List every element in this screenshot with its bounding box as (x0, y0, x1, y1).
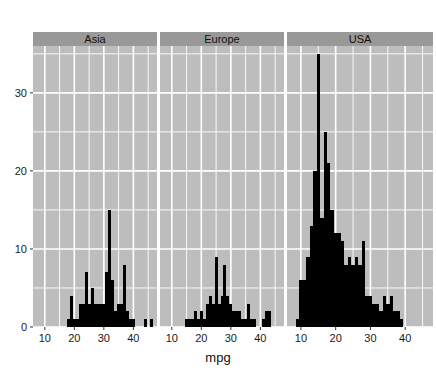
facet-panel-usa: USA10203040 (287, 32, 433, 344)
y-tick-label: 10 (15, 243, 27, 255)
histogram-bar (67, 319, 70, 327)
histogram-bar (85, 272, 88, 327)
histogram-bar (393, 311, 396, 327)
histogram-bar (203, 319, 206, 327)
histogram-bar (150, 319, 153, 327)
histogram-bar (235, 311, 238, 327)
histogram-bar (117, 304, 120, 327)
x-tick-label: 40 (127, 332, 139, 344)
histogram-bar (250, 319, 253, 327)
faceted-histogram-svg: Asia10203040Europe10203040USA10203040010… (0, 0, 436, 380)
histogram-bar (238, 311, 241, 327)
histogram-bar (215, 257, 218, 327)
histogram-bar (108, 210, 111, 327)
histogram-bar (99, 304, 102, 327)
histogram-bar (241, 319, 244, 327)
histogram-bar (244, 319, 247, 327)
histogram-bar (200, 311, 203, 327)
histogram-bar (218, 304, 221, 327)
histogram-bar (105, 272, 108, 327)
histogram-bar (334, 233, 337, 327)
histogram-bar (132, 319, 135, 327)
histogram-bar (253, 319, 256, 327)
x-tick-label: 20 (68, 332, 80, 344)
histogram-bar (341, 241, 344, 327)
histogram-bar (355, 257, 358, 327)
histogram-bar (88, 304, 91, 327)
histogram-bar (348, 257, 351, 327)
x-tick-label: 40 (399, 332, 411, 344)
y-tick-label: 30 (15, 87, 27, 99)
histogram-bar (379, 311, 382, 327)
histogram-bar (102, 304, 105, 327)
histogram-bar (229, 304, 232, 327)
histogram-bar (191, 319, 194, 327)
histogram-bar (223, 265, 226, 327)
histogram-bar (386, 304, 389, 327)
histogram-bar (383, 296, 386, 327)
chart-figure: Asia10203040Europe10203040USA10203040010… (0, 0, 436, 380)
histogram-bar (330, 210, 333, 327)
facet-strip-label-asia: Asia (84, 33, 106, 45)
histogram-bar (303, 280, 306, 327)
histogram-bar (317, 54, 320, 327)
y-tick-label: 20 (15, 165, 27, 177)
histogram-bar (73, 319, 76, 327)
histogram-bar (324, 132, 327, 327)
histogram-bar (76, 319, 79, 327)
histogram-bar (197, 319, 200, 327)
panel-background-asia (33, 46, 157, 327)
histogram-bar (397, 311, 400, 327)
histogram-bar (96, 304, 99, 327)
histogram-bar (344, 265, 347, 327)
histogram-bar (265, 311, 268, 327)
histogram-bar (232, 311, 235, 327)
x-tick-label: 20 (195, 332, 207, 344)
panel-background-europe (160, 46, 284, 327)
histogram-bar (365, 296, 368, 327)
x-tick-label: 10 (39, 332, 51, 344)
histogram-bar (206, 304, 209, 327)
histogram-bar (120, 304, 123, 327)
x-axis-title: mpg (205, 350, 230, 365)
x-tick-label: 10 (166, 332, 178, 344)
histogram-bar (306, 257, 309, 327)
x-tick-label: 30 (98, 332, 110, 344)
histogram-bar (369, 296, 372, 327)
facet-panel-asia: Asia10203040 (33, 32, 157, 344)
histogram-bar (358, 265, 361, 327)
histogram-bar (221, 296, 224, 327)
histogram-bar (247, 304, 250, 327)
histogram-bar (310, 226, 313, 327)
x-tick-label: 20 (330, 332, 342, 344)
histogram-bar (82, 304, 85, 327)
histogram-bar (94, 304, 97, 327)
histogram-bar (79, 304, 82, 327)
histogram-bar (299, 280, 302, 327)
histogram-bar (320, 218, 323, 327)
histogram-bar (400, 319, 403, 327)
x-tick-label: 40 (254, 332, 266, 344)
histogram-bar (188, 319, 191, 327)
histogram-bar (129, 319, 132, 327)
histogram-bar (362, 241, 365, 327)
x-tick-label: 10 (295, 332, 307, 344)
histogram-bar (372, 304, 375, 327)
histogram-bar (70, 296, 73, 327)
x-tick-label: 30 (364, 332, 376, 344)
histogram-bar (212, 304, 215, 327)
histogram-bar (185, 319, 188, 327)
histogram-bar (126, 311, 129, 327)
histogram-bar (327, 163, 330, 327)
x-tick-label: 30 (225, 332, 237, 344)
histogram-bar (226, 296, 229, 327)
facet-panel-europe: Europe10203040 (160, 32, 284, 344)
histogram-bar (123, 265, 126, 327)
histogram-bar (296, 319, 299, 327)
histogram-bar (209, 296, 212, 327)
histogram-bar (351, 265, 354, 327)
facet-strip-label-usa: USA (349, 33, 372, 45)
histogram-bar (144, 319, 147, 327)
histogram-bar (313, 171, 316, 327)
histogram-bar (111, 280, 114, 327)
